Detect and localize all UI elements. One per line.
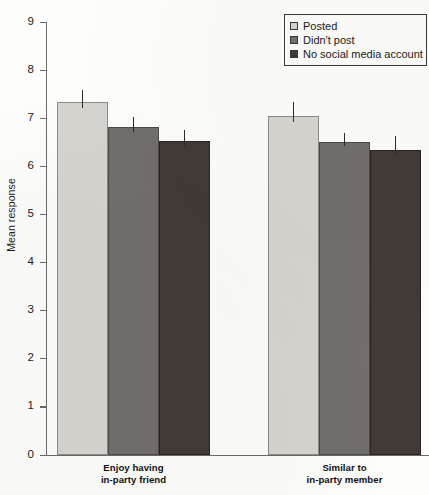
y-tick-mark xyxy=(40,358,47,359)
y-tick-mark xyxy=(40,70,47,71)
y-tick-mark xyxy=(40,406,47,407)
legend-swatch-icon xyxy=(290,36,298,44)
legend-label: Posted xyxy=(303,21,337,32)
group-label-line: in-party member xyxy=(248,474,429,486)
error-bar xyxy=(184,130,185,145)
y-tick-label: 2 xyxy=(4,352,34,364)
legend-item-didnt-post: Didn't post xyxy=(290,33,421,47)
legend-swatch-icon xyxy=(290,50,298,58)
y-tick-label: 0 xyxy=(4,449,34,461)
bar-chart-figure: 0123456789 Mean response Enjoy havingin-… xyxy=(0,0,429,495)
error-bar xyxy=(133,117,134,132)
error-bar xyxy=(82,90,83,108)
bar xyxy=(319,142,370,455)
y-tick-mark xyxy=(40,214,47,215)
y-tick-mark xyxy=(40,22,47,23)
bar xyxy=(108,127,159,455)
bar xyxy=(370,150,421,455)
y-tick-mark xyxy=(40,166,47,167)
y-tick-label: 9 xyxy=(4,16,34,28)
y-tick-label: 3 xyxy=(4,304,34,316)
y-tick-label: 1 xyxy=(4,400,34,412)
y-tick-mark xyxy=(40,262,47,263)
legend-label: Didn't post xyxy=(303,35,355,46)
group-label: Similar toin-party member xyxy=(248,462,429,485)
error-bar xyxy=(293,102,294,122)
error-bar xyxy=(395,136,396,157)
legend: Posted Didn't post No social media accou… xyxy=(284,14,427,66)
legend-item-posted: Posted xyxy=(290,19,421,33)
bar xyxy=(57,102,108,455)
plot-area xyxy=(47,22,429,455)
y-tick-mark xyxy=(40,455,47,456)
error-bar xyxy=(344,133,345,146)
y-tick-label: 8 xyxy=(4,64,34,76)
legend-label: No social media account xyxy=(303,49,423,60)
legend-swatch-icon xyxy=(290,22,298,30)
x-axis-baseline xyxy=(46,455,429,456)
group-label-line: Enjoy having xyxy=(37,462,230,474)
y-axis-label: Mean response xyxy=(5,160,17,270)
legend-item-no-social-media-account: No social media account xyxy=(290,47,421,61)
group-label: Enjoy havingin-party friend xyxy=(37,462,230,485)
bar xyxy=(268,116,319,455)
y-tick-mark xyxy=(40,310,47,311)
bar xyxy=(159,141,210,455)
y-tick-mark xyxy=(40,118,47,119)
group-label-line: in-party friend xyxy=(37,474,230,486)
y-tick-label: 7 xyxy=(4,112,34,124)
group-label-line: Similar to xyxy=(248,462,429,474)
